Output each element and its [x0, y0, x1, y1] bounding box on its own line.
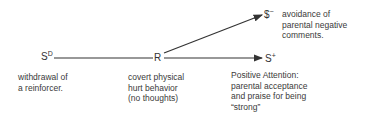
node-splus-base: S — [265, 53, 272, 64]
label-r: covert physical hurt behavior (no though… — [128, 72, 184, 104]
node-splus-sup: + — [272, 52, 276, 59]
label-sd: withdrawal of a reinforcer. — [18, 72, 68, 93]
label-splus: Positive Attention: parental acceptance … — [231, 70, 308, 112]
node-sd-sup: D — [48, 50, 53, 57]
node-sminus: $− — [264, 8, 274, 20]
node-r: R — [154, 52, 161, 63]
node-sd: SD — [41, 50, 53, 62]
node-r-base: R — [154, 52, 161, 63]
node-sd-base: S — [41, 51, 48, 62]
label-sminus: avoidance of parental negative comments. — [282, 9, 347, 41]
node-splus: S+ — [265, 52, 276, 64]
node-sminus-sup: − — [270, 8, 274, 15]
edge-r-to-sminus — [164, 15, 262, 53]
